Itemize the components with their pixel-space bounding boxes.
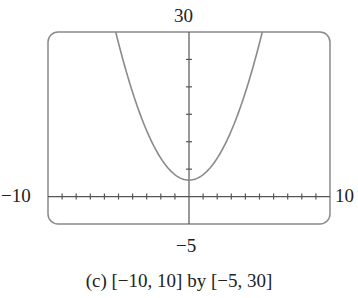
axes bbox=[48, 32, 330, 224]
figure-caption: (c) [−10, 10] by [−5, 30] bbox=[0, 270, 358, 292]
graph-window bbox=[0, 0, 358, 298]
